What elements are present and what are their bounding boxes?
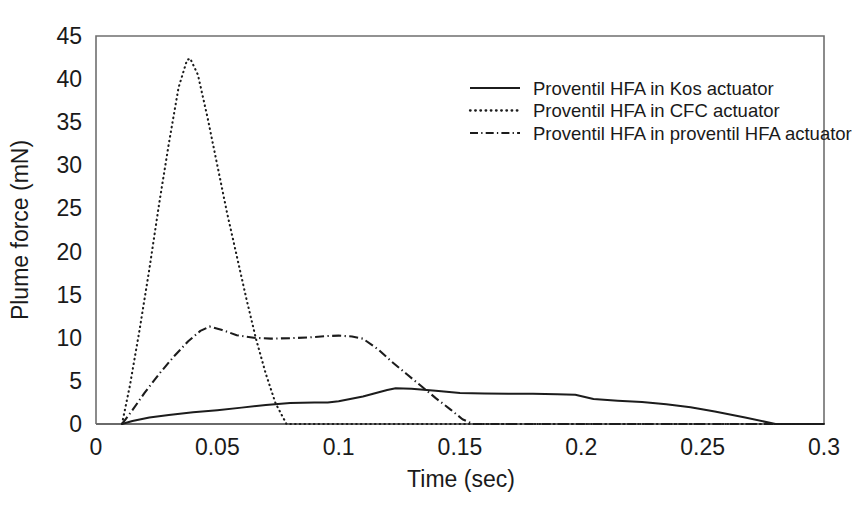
x-tick-label: 0.05 — [195, 434, 240, 460]
x-tick-label: 0.3 — [808, 434, 840, 460]
y-tick-label: 25 — [56, 195, 82, 221]
y-tick-label: 20 — [56, 239, 82, 265]
y-tick-label: 10 — [56, 325, 82, 351]
x-tick-label: 0.15 — [438, 434, 483, 460]
y-tick-label: 30 — [56, 152, 82, 178]
x-tick-label: 0.2 — [565, 434, 597, 460]
y-tick-label: 5 — [69, 368, 82, 394]
chart-container: 051015202530354045 00.050.10.150.20.250.… — [0, 0, 862, 508]
y-tick-label: 15 — [56, 282, 82, 308]
y-axis-title: Plume force (mN) — [7, 140, 33, 320]
legend-label-2: Proventil HFA in CFC actuator — [533, 100, 780, 121]
y-tick-label: 45 — [56, 23, 82, 49]
x-tick-label: 0 — [90, 434, 103, 460]
y-tick-label: 40 — [56, 66, 82, 92]
plume-force-line-chart: 051015202530354045 00.050.10.150.20.250.… — [0, 0, 862, 508]
y-tick-label: 35 — [56, 109, 82, 135]
x-tick-label: 0.25 — [680, 434, 725, 460]
y-tick-label: 0 — [69, 411, 82, 437]
legend-label-1: Proventil HFA in Kos actuator — [533, 78, 774, 99]
x-axis-title: Time (sec) — [407, 466, 515, 492]
x-tick-label: 0.1 — [323, 434, 355, 460]
chart-background — [0, 0, 862, 508]
legend-label-3: Proventil HFA in proventil HFA actuator — [533, 123, 852, 144]
